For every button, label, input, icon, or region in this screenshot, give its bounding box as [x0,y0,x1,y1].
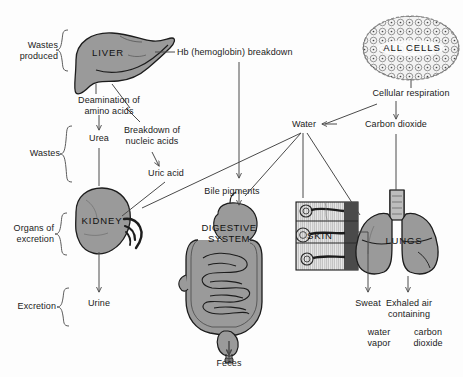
organ-label-digestive-system: DIGESTIVE SYSTEM [196,222,262,244]
excretion-diagram: Wastes produced Wastes Organs of excreti… [0,0,463,377]
excretion-label-exhaled-air: Exhaled air containing [378,298,440,320]
bracket-label-wastes: Wastes [8,148,60,159]
process-label-nucleic-acid-breakdown: Breakdown of nucleic acids [114,125,190,147]
bracket-label-wastes-produced: Wastes produced [6,40,58,62]
organ-label-liver: LIVER [80,47,136,58]
bracket-label-excretion: Excretion [2,301,56,312]
bracket-label-organs-of-excretion: Organs of excretion [2,223,54,245]
excretion-label-water-vapor: water vapor [360,327,398,349]
substance-label-water: Water [286,119,322,130]
substance-label-uric-acid: Uric acid [140,168,192,179]
substance-label-urea: Urea [80,133,118,144]
process-label-cellular-respiration: Cellular respiration [360,88,462,99]
line-uric-to-kidney [122,182,165,216]
substance-label-bile-pigments: Bile pigments [196,186,268,197]
excretion-label-feces: Feces [210,358,248,369]
excretion-label-exhaled-carbon-dioxide: carbon dioxide [406,327,450,349]
organ-label-lungs: LUNGS [381,235,427,246]
process-label-hb-breakdown: Hb (hemoglobin) breakdown [177,47,293,58]
bracket-excretion [57,288,69,326]
organ-label-all-cells: ALL CELLS [383,42,441,53]
liver-shape [75,33,175,94]
excretion-label-urine: Urine [80,298,118,309]
substance-label-carbon-dioxide: Carbon dioxide [355,119,437,130]
bracket-wastes [60,126,72,182]
arrow-nucleic-to-uric [152,152,159,166]
digestive-system-shape [179,192,262,363]
organ-label-kidney: KIDNEY [73,215,131,226]
bracket-organs-of-excretion [55,213,67,255]
organ-label-skin: SKIN [304,230,336,241]
process-label-deamination: Deamination of amino acids [60,95,158,117]
